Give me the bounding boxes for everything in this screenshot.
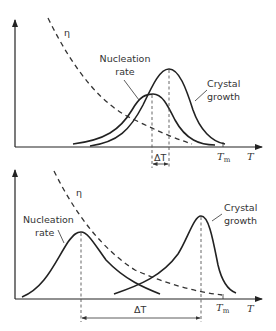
top-growth-label-2: growth bbox=[207, 91, 240, 102]
top-nucleation-leader bbox=[124, 80, 139, 100]
top-viscosity-label: η bbox=[64, 27, 70, 38]
bottom-nucleation-label-1: Nucleation bbox=[23, 214, 74, 225]
bottom-panel: η Nucleation rate Crystal growth ΔT Tm T bbox=[15, 170, 262, 322]
bottom-tm-label: Tm bbox=[216, 302, 230, 315]
top-tm-label: Tm bbox=[217, 151, 231, 164]
top-panel: η Nucleation rate Crystal growth ΔT Tm T bbox=[15, 18, 262, 168]
top-delta-t-label: ΔT bbox=[154, 152, 166, 163]
bottom-growth-curve bbox=[114, 216, 236, 294]
top-growth-label-1: Crystal bbox=[207, 78, 240, 89]
bottom-nucleation-label-2: rate bbox=[35, 227, 54, 238]
top-growth-curve bbox=[90, 69, 225, 146]
top-x-axis-label: T bbox=[247, 151, 255, 162]
top-nucleation-label-1: Nucleation bbox=[100, 53, 151, 64]
bottom-growth-label-1: Crystal bbox=[224, 202, 257, 213]
top-nucleation-label-2: rate bbox=[115, 66, 134, 77]
crystallization-diagram: η Nucleation rate Crystal growth ΔT Tm T… bbox=[0, 0, 276, 331]
bottom-viscosity-label: η bbox=[76, 187, 82, 198]
bottom-x-axis-label: T bbox=[247, 303, 255, 314]
bottom-nucleation-leader bbox=[58, 230, 64, 243]
top-growth-leader bbox=[195, 90, 207, 101]
bottom-growth-leader bbox=[212, 214, 222, 221]
bottom-growth-label-2: growth bbox=[224, 215, 257, 226]
bottom-nucleation-curve bbox=[22, 232, 160, 297]
bottom-delta-t-label: ΔT bbox=[134, 304, 146, 315]
